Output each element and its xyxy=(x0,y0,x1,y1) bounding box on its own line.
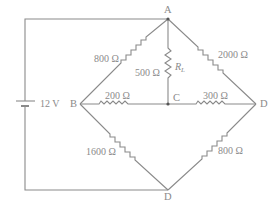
resistor-cd-icon xyxy=(168,101,256,104)
resistor-bd-label: 1600 Ω xyxy=(86,147,116,157)
battery-voltage-label: 12 V xyxy=(40,99,60,109)
resistor-ad-label: 2000 Ω xyxy=(218,50,248,60)
node-a-dot xyxy=(166,17,169,20)
node-c-dot xyxy=(166,102,169,105)
circuit-diagram: A B C D D 12 V 800 Ω 2000 Ω 500 Ω RL 200… xyxy=(0,0,277,210)
node-d-bottom-label: D xyxy=(164,192,172,203)
battery-icon xyxy=(16,101,35,106)
resistor-bc-label: 200 Ω xyxy=(105,91,130,101)
resistor-rl-icon xyxy=(165,19,171,104)
node-a-label: A xyxy=(164,5,172,16)
node-d-right-label: D xyxy=(260,99,268,110)
resistor-bc-icon xyxy=(80,101,168,104)
resistor-rl-name-label: RL xyxy=(175,62,185,72)
node-c-label: C xyxy=(173,93,180,104)
resistor-cd-label: 300 Ω xyxy=(203,91,228,101)
resistor-dd-label: 800 Ω xyxy=(218,146,243,156)
resistor-ab-label: 800 Ω xyxy=(94,54,119,64)
node-b-label: B xyxy=(70,99,77,110)
resistor-rl-value-label: 500 Ω xyxy=(135,68,160,78)
